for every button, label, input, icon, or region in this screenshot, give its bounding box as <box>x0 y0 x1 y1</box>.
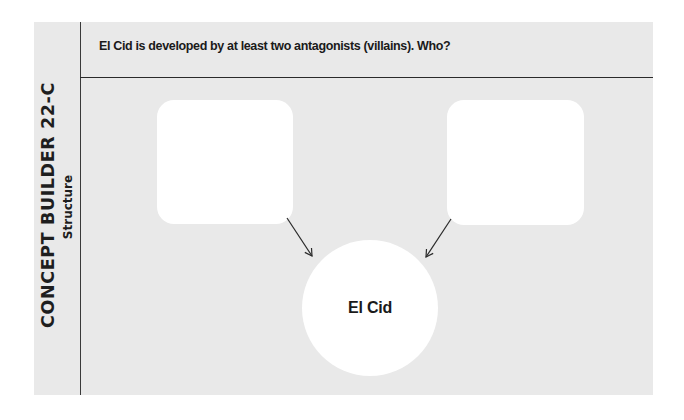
header-divider <box>80 77 653 78</box>
section-subtitle: Structure <box>61 175 75 239</box>
antagonist-answer-box-right[interactable] <box>447 100 584 225</box>
protagonist-circle: El Cid <box>302 240 438 376</box>
question-prompt: El Cid is developed by at least two anta… <box>99 39 450 53</box>
concept-builder-title: CONCEPT BUILDER 22-C <box>38 82 58 328</box>
antagonist-answer-box-left[interactable] <box>157 100 293 224</box>
protagonist-label: El Cid <box>348 299 392 317</box>
